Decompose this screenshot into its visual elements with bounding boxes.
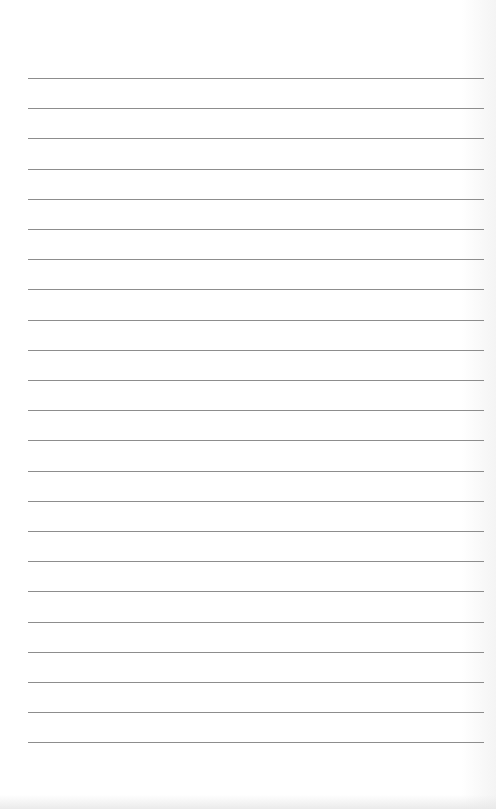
ruled-line	[28, 380, 484, 381]
ruled-line	[28, 440, 484, 441]
page-bottom-shadow	[0, 795, 496, 809]
ruled-line	[28, 350, 484, 351]
ruled-line	[28, 531, 484, 532]
ruled-line	[28, 169, 484, 170]
ruled-line	[28, 199, 484, 200]
ruled-line	[28, 259, 484, 260]
ruled-line	[28, 320, 484, 321]
ruled-line	[28, 622, 484, 623]
ruled-line	[28, 561, 484, 562]
ruled-line	[28, 78, 484, 79]
ruled-line	[28, 471, 484, 472]
ruled-line	[28, 501, 484, 502]
ruled-line	[28, 289, 484, 290]
ruled-line	[28, 591, 484, 592]
ruled-line	[28, 410, 484, 411]
ruled-line	[28, 652, 484, 653]
lined-paper-sheet	[0, 0, 496, 809]
ruled-line	[28, 108, 484, 109]
ruled-line	[28, 742, 484, 743]
ruled-line	[28, 712, 484, 713]
ruled-line	[28, 229, 484, 230]
ruled-line	[28, 138, 484, 139]
ruled-line	[28, 682, 484, 683]
